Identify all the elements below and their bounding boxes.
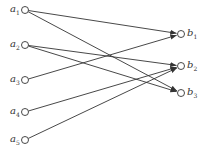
edge-a2-b3 (28, 46, 176, 92)
graph-canvas (0, 0, 204, 159)
label-a3: a3 (10, 74, 20, 88)
edge-a5-b2 (28, 68, 177, 139)
node-a4 (22, 109, 29, 116)
edge-a1-b3 (28, 12, 177, 91)
nodes (22, 7, 185, 144)
node-a2 (22, 42, 29, 49)
edge-a1-b1 (28, 11, 176, 34)
figure-caption (40, 150, 160, 156)
label-a1: a1 (10, 4, 20, 18)
label-b3: b3 (187, 87, 197, 101)
node-b1 (178, 31, 185, 38)
edge-a4-b2 (28, 67, 176, 111)
label-b1: b1 (187, 28, 197, 42)
label-a4: a4 (10, 106, 20, 120)
node-a5 (22, 137, 29, 144)
label-a2: a2 (10, 39, 20, 53)
edges (28, 11, 177, 139)
edge-a3-b1 (28, 35, 176, 79)
label-b2: b2 (187, 60, 197, 74)
label-a5: a5 (10, 134, 20, 148)
bipartite-graph: a1a2a3a4a5b1b2b3 (0, 0, 204, 159)
node-a1 (22, 7, 29, 14)
node-a3 (22, 77, 29, 84)
edge-a2-b2 (28, 45, 176, 65)
node-b3 (178, 90, 185, 97)
node-b2 (178, 63, 185, 70)
